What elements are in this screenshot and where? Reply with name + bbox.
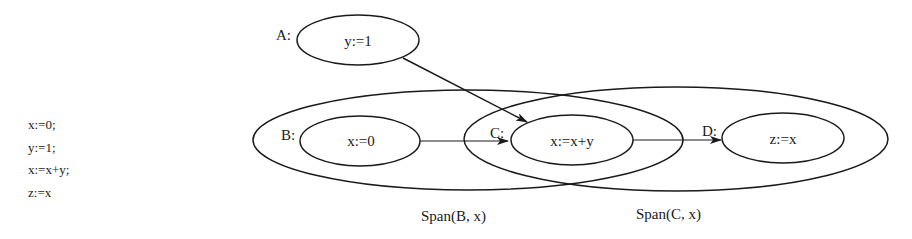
node-c: C: x:=x+y bbox=[490, 115, 633, 165]
node-d-stmt: z:=x bbox=[770, 131, 797, 147]
node-c-stmt: x:=x+y bbox=[550, 133, 594, 149]
node-a-label: A: bbox=[276, 27, 291, 43]
node-a-stmt: y:=1 bbox=[344, 33, 372, 49]
node-a: A: y:=1 bbox=[276, 15, 419, 65]
node-c-label: C: bbox=[490, 125, 504, 141]
node-d: D: z:=x bbox=[702, 113, 844, 163]
node-b-stmt: x:=0 bbox=[347, 133, 375, 149]
node-b-label: B: bbox=[281, 127, 295, 143]
span-c-label: Span(C, x) bbox=[636, 206, 701, 223]
edge-a-to-c bbox=[403, 58, 527, 122]
span-diagram: A: y:=1 B: x:=0 C: x:=x+y D: z:=x Span(B… bbox=[0, 0, 912, 239]
span-b-label: Span(B, x) bbox=[421, 208, 486, 225]
node-b: B: x:=0 bbox=[281, 116, 420, 166]
node-d-label: D: bbox=[702, 123, 717, 139]
